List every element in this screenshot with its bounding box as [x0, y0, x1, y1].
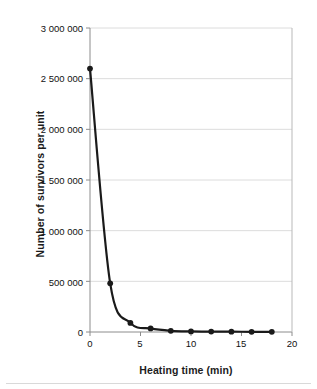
data-point-4 — [127, 320, 133, 326]
data-point-10 — [188, 328, 194, 334]
chart-figure: Number of survivors per unit Heating tim… — [0, 0, 317, 389]
data-point-2 — [107, 280, 113, 286]
gridlines — [90, 28, 292, 281]
data-point-12 — [208, 329, 214, 335]
data-point-8 — [168, 328, 174, 334]
data-point-6 — [148, 326, 154, 332]
data-point-0 — [87, 66, 93, 72]
plot-area — [0, 0, 317, 389]
data-point-markers — [87, 66, 275, 335]
data-point-16 — [249, 329, 255, 335]
data-point-18 — [269, 329, 275, 335]
data-series-line — [90, 69, 272, 332]
data-point-14 — [229, 329, 235, 335]
footer-rule — [6, 383, 311, 384]
